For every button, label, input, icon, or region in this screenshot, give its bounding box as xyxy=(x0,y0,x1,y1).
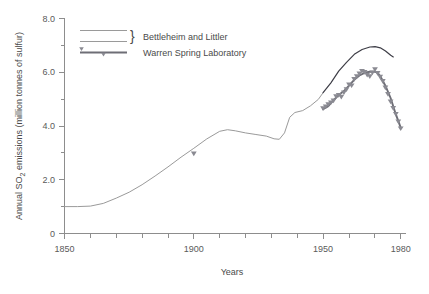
y-tick-label-6: 6.0 xyxy=(42,67,55,77)
scatter-marker xyxy=(191,152,197,157)
scatter-marker xyxy=(398,126,404,131)
so2-emissions-line-chart: 8.0 6.0 4.0 2.0 0 1850 1900 1950 xyxy=(0,0,429,294)
x-tick-label-1980: 1980 xyxy=(391,244,411,254)
x-axis-title: Years xyxy=(221,267,244,277)
legend-marker-warren-spring-left xyxy=(79,47,84,51)
scatter-marker xyxy=(338,95,344,100)
chart-figure: 8.0 6.0 4.0 2.0 0 1850 1900 1950 xyxy=(0,0,429,294)
y-axis-major-ticks xyxy=(59,19,65,234)
y-axis-title: Annual SO2 emissions (million tonnes of … xyxy=(14,32,26,220)
scatter-marker xyxy=(395,119,401,124)
x-axis-minor-ticks xyxy=(90,234,374,238)
x-tick-label-1850: 1850 xyxy=(54,244,74,254)
legend-label-warren-spring: Warren Spring Laboratory xyxy=(143,48,247,58)
y-axis-title-prefix: Annual SO xyxy=(14,176,24,220)
scatter-marker xyxy=(367,74,373,79)
x-axis-major-ticks xyxy=(65,234,401,240)
legend-brace: } xyxy=(130,28,135,44)
y-tick-label-0: 0 xyxy=(50,229,55,239)
legend-label-bettleheim: Bettleheim and Littler xyxy=(143,32,228,42)
y-tick-label-8: 8.0 xyxy=(42,14,55,24)
y-tick-label-2: 2.0 xyxy=(42,175,55,185)
legend-marker-warren-spring-mid xyxy=(101,53,106,57)
chart-legend: } Bettleheim and Littler Warren Spring L… xyxy=(79,28,247,58)
x-tick-label-1900: 1900 xyxy=(184,244,204,254)
scatter-marker xyxy=(393,112,399,117)
x-tick-label-1950: 1950 xyxy=(313,244,333,254)
series-line-bettleheim-early-main xyxy=(65,93,324,207)
y-tick-label-4: 4.0 xyxy=(42,121,55,131)
y-axis-title-suffix: emissions (million tonnes of sulfur) xyxy=(14,32,24,173)
